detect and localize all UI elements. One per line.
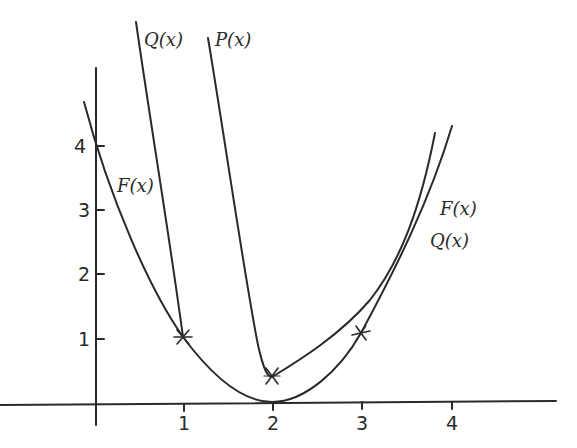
y-tick-label-2: 2 xyxy=(78,263,90,285)
label-q-top: Q(x) xyxy=(144,29,183,50)
y-tick-label-4: 4 xyxy=(74,135,86,157)
curve-f xyxy=(84,102,452,402)
label-q-right: Q(x) xyxy=(430,230,469,251)
y-tick-label-1: 1 xyxy=(78,328,90,350)
x-tick-label-2: 2 xyxy=(267,412,279,434)
axes: 4 3 2 1 1 2 3 4 xyxy=(0,68,556,434)
label-f-left: F(x) xyxy=(116,175,154,196)
label-p-top: P(x) xyxy=(214,29,251,50)
label-f-right: F(x) xyxy=(439,198,477,219)
x-tick-label-4: 4 xyxy=(446,412,458,434)
x-tick-label-3: 3 xyxy=(356,412,368,434)
y-tick-label-3: 3 xyxy=(78,199,90,221)
star-marker-3 xyxy=(352,326,370,340)
curve-p xyxy=(208,38,435,377)
x-tick-label-1: 1 xyxy=(178,412,190,434)
chart-canvas: 4 3 2 1 1 2 3 4 Q(x) P(x) F(x) F(x) Q(x) xyxy=(0,0,577,448)
